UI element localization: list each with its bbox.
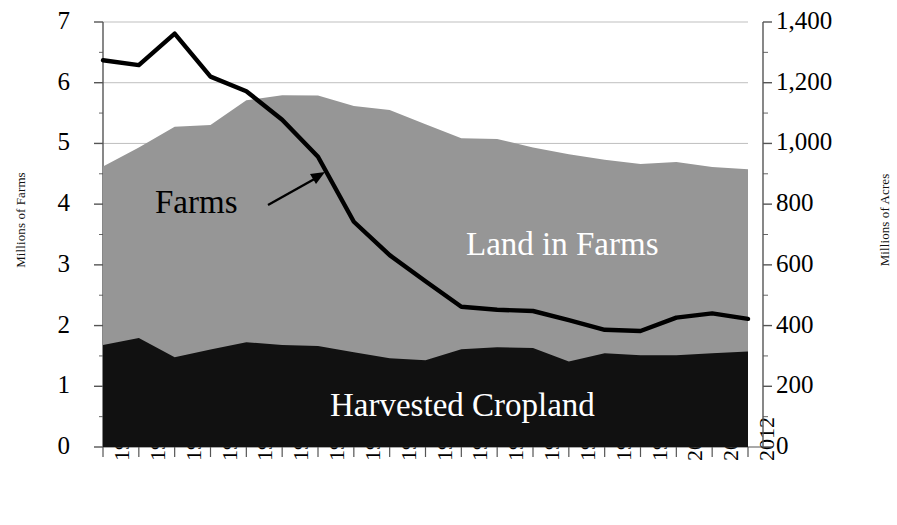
farms-series-label: Farms (155, 186, 238, 219)
plot-svg (0, 0, 897, 525)
plot-area (0, 0, 897, 525)
harvested-cropland-series-label: Harvested Cropland (330, 389, 595, 422)
land-in-farms-series-label: Land in Farms (466, 228, 658, 261)
chart-root: Millions of Farms Millions of Acres 7654… (0, 0, 897, 525)
